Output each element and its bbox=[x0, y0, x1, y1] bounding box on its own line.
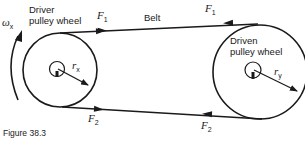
radius-y-label: ry bbox=[274, 66, 282, 78]
driven-label-line1: Driven bbox=[230, 36, 257, 46]
angular-velocity-arrow bbox=[11, 30, 22, 100]
omega-subscript: x bbox=[10, 23, 14, 30]
driver-label-line1: Driver bbox=[29, 5, 54, 15]
omega-x-label: ωx bbox=[2, 17, 13, 29]
f2-left-symbol: F bbox=[88, 112, 95, 124]
driven-pulley-wheel bbox=[213, 25, 305, 119]
radius-x-label: rx bbox=[72, 60, 80, 72]
radius-x-subscript: x bbox=[76, 66, 80, 73]
force-f1-right-label: F1 bbox=[205, 3, 216, 15]
f1-left-symbol: F bbox=[97, 9, 104, 21]
radius-y-subscript: y bbox=[278, 72, 282, 79]
f2-right-subscript: 2 bbox=[208, 126, 212, 133]
f1-left-subscript: 1 bbox=[104, 16, 108, 23]
f1-right-subscript: 1 bbox=[212, 9, 216, 16]
belt-label: Belt bbox=[144, 13, 160, 23]
figure-caption: Figure 38.3 bbox=[3, 128, 46, 138]
f2-left-subscript: 2 bbox=[95, 119, 99, 126]
f2-right-symbol: F bbox=[201, 119, 208, 131]
belt-drive-diagram: Driver pulley wheel ωx rx F1 Belt F1 Dri… bbox=[0, 0, 305, 141]
omega-symbol: ω bbox=[2, 16, 10, 28]
force-f2-left-label: F2 bbox=[88, 113, 99, 125]
driver-label-line2: pulley wheel bbox=[29, 16, 81, 26]
driven-label-line2: pulley wheel bbox=[230, 47, 282, 57]
force-f2-right-label: F2 bbox=[201, 120, 212, 132]
force-f1-left-label: F1 bbox=[97, 10, 108, 22]
f1-right-symbol: F bbox=[205, 2, 212, 14]
driver-pulley-wheel bbox=[23, 33, 97, 107]
